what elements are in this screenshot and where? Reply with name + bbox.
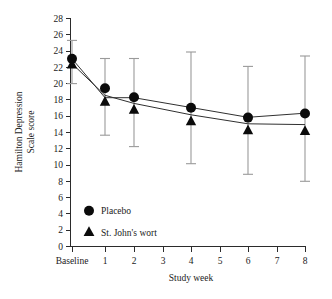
y-tick-label: 18 <box>54 95 64 105</box>
y-tick-label: 26 <box>54 30 64 40</box>
data-point-placebo <box>129 92 139 102</box>
y-tick-28: 28 <box>54 14 71 24</box>
x-tick-5: 5 <box>218 247 223 267</box>
y-axis-title: Hamilton Depression Scale score <box>14 91 36 172</box>
data-point-placebo <box>243 113 253 123</box>
data-point-placebo <box>100 83 110 93</box>
x-tick-2: 2 <box>132 247 137 267</box>
data-point-st-johns-wort <box>243 124 253 134</box>
x-tick-label: 7 <box>275 256 280 266</box>
x-tick-label: 4 <box>189 256 194 266</box>
x-tick-label: 2 <box>132 256 137 266</box>
y-tick-label: 16 <box>54 111 64 121</box>
y-tick-10: 10 <box>54 160 71 170</box>
y-tick-18: 18 <box>54 95 71 105</box>
data-point-st-johns-wort <box>129 104 139 114</box>
y-tick-6: 6 <box>58 193 70 203</box>
legend-label-st-johns-wort: St. John's wort <box>101 228 157 238</box>
x-tick-7: 7 <box>275 247 280 267</box>
legend-label-placebo: Placebo <box>101 206 131 216</box>
y-axis-title-line2: Scale score <box>26 111 36 154</box>
y-axis-title-line1: Hamilton Depression <box>14 91 24 172</box>
x-tick-label: 6 <box>246 256 251 266</box>
x-tick-label: Baseline <box>56 256 89 266</box>
data-point-placebo <box>186 103 196 113</box>
data-point-st-johns-wort <box>186 115 196 125</box>
y-tick-label: 14 <box>54 128 64 138</box>
x-tick-label: 3 <box>161 256 166 266</box>
y-tick-8: 8 <box>58 177 70 187</box>
y-tick-label: 20 <box>54 79 64 89</box>
chart-legend: Placebo St. John's wort <box>84 206 158 238</box>
x-tick-label: 1 <box>103 256 108 266</box>
y-tick-label: 4 <box>58 209 63 219</box>
y-tick-12: 12 <box>54 144 71 154</box>
y-tick-label: 0 <box>58 242 63 252</box>
data-point-st-johns-wort <box>300 125 310 135</box>
x-tick-6: 6 <box>246 247 251 267</box>
y-tick-24: 24 <box>54 46 71 56</box>
x-axis-title: Study week <box>169 273 214 283</box>
legend-marker-circle-icon <box>84 206 94 216</box>
y-tick-0: 0 <box>58 242 70 252</box>
y-tick-label: 24 <box>54 46 64 56</box>
placebo-markers <box>67 54 310 123</box>
chart-figure: 0 2 4 6 8 10 1 <box>0 0 332 299</box>
data-point-placebo <box>300 109 310 119</box>
y-tick-label: 2 <box>58 225 63 235</box>
x-tick-3: 3 <box>161 247 166 267</box>
hamilton-depression-line-chart: 0 2 4 6 8 10 1 <box>0 0 332 299</box>
x-tick-4: 4 <box>189 247 194 267</box>
x-tick-label: 5 <box>218 256 223 266</box>
y-tick-26: 26 <box>54 30 71 40</box>
y-tick-label: 10 <box>54 160 64 170</box>
y-tick-16: 16 <box>54 111 71 121</box>
error-bar-week8 <box>300 56 310 181</box>
y-tick-label: 8 <box>58 177 63 187</box>
legend-marker-triangle-icon <box>84 226 95 236</box>
y-tick-label: 28 <box>54 14 64 24</box>
y-axis-ticks: 0 2 4 6 8 10 1 <box>54 14 71 252</box>
y-tick-label: 12 <box>54 144 64 154</box>
x-tick-1: 1 <box>103 247 108 267</box>
y-tick-14: 14 <box>54 128 71 138</box>
y-tick-label: 6 <box>58 193 63 203</box>
st-johns-wort-markers <box>67 59 310 135</box>
y-tick-2: 2 <box>58 225 70 235</box>
x-tick-label: 8 <box>303 256 308 266</box>
y-tick-label: 22 <box>54 63 64 73</box>
x-tick-8: 8 <box>303 247 308 267</box>
x-axis-ticks: Baseline 1 2 3 4 5 <box>56 247 308 267</box>
y-tick-4: 4 <box>58 209 70 219</box>
